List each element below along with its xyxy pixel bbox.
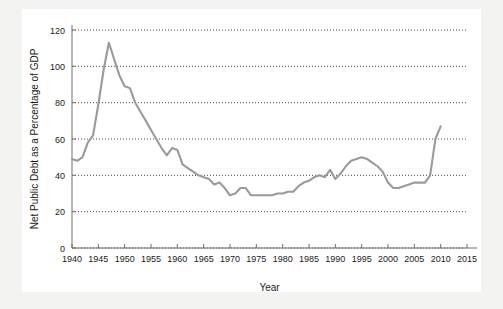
x-axis-ticks	[72, 244, 467, 248]
x-tick-label: 1970	[220, 254, 240, 264]
x-tick-label: 1950	[115, 254, 135, 264]
series-line	[72, 43, 441, 196]
x-tick-label: 1985	[299, 254, 319, 264]
line-chart: 1940194519501955196019651970197519801985…	[22, 9, 481, 292]
x-tick-label: 1975	[246, 254, 266, 264]
x-tick-label: 2000	[378, 254, 398, 264]
y-tick-label: 100	[50, 62, 65, 72]
data-series-group	[72, 43, 441, 196]
x-tick-label: 2005	[404, 254, 424, 264]
y-tick-label: 40	[55, 171, 65, 181]
x-axis-title: Year	[259, 282, 280, 292]
x-tick-label: 1940	[62, 254, 82, 264]
y-tick-label: 80	[55, 98, 65, 108]
gridlines-group	[72, 30, 467, 248]
x-tick-label: 1980	[273, 254, 293, 264]
x-tick-label: 1955	[141, 254, 161, 264]
x-tick-label: 1965	[194, 254, 214, 264]
x-axis-tick-labels: 1940194519501955196019651970197519801985…	[62, 254, 477, 264]
chart-card: 1940194519501955196019651970197519801985…	[22, 9, 481, 292]
x-tick-label: 1960	[167, 254, 187, 264]
y-axis-title: Net Public Debt as a Percentage of GDP	[29, 48, 40, 229]
x-tick-label: 2010	[431, 254, 451, 264]
y-tick-label: 20	[55, 207, 65, 217]
y-tick-label: 120	[50, 26, 65, 36]
y-axis-ticks	[72, 30, 76, 248]
y-tick-label: 60	[55, 135, 65, 145]
x-tick-label: 1995	[352, 254, 372, 264]
x-tick-label: 1945	[88, 254, 108, 264]
y-axis-tick-labels: 020406080100120	[50, 26, 65, 254]
y-tick-label: 0	[60, 244, 65, 254]
x-tick-label: 2015	[457, 254, 477, 264]
figure-root: 1940194519501955196019651970197519801985…	[0, 0, 503, 309]
x-tick-label: 1990	[325, 254, 345, 264]
